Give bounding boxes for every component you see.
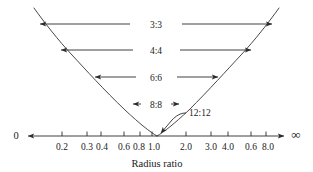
x-axis-title: Radius ratio bbox=[131, 158, 182, 169]
x-axis-tick-label: 8.0 bbox=[262, 142, 274, 152]
annotation-label-6-6: 6:6 bbox=[150, 73, 162, 83]
annotation-3-3: 3:3 bbox=[40, 20, 272, 30]
annotation-6-6: 6:6 bbox=[95, 73, 218, 83]
annotation-label-12-12: 12:12 bbox=[189, 108, 211, 118]
x-axis-tick-label: 0.6 bbox=[245, 142, 257, 152]
x-axis-tick-label: 4.0 bbox=[222, 142, 234, 152]
diagram-canvas: 3:3 4:4 6:6 8:8 12:12 bbox=[0, 0, 313, 172]
annotation-label-3-3: 3:3 bbox=[150, 20, 162, 30]
annotation-12-12: 12:12 bbox=[161, 108, 211, 133]
annotation-8-8: 8:8 bbox=[133, 100, 179, 110]
annotation-4-4: 4:4 bbox=[61, 46, 251, 56]
x-axis-tick-label: 2.0 bbox=[180, 142, 192, 152]
x-axis-tick-label: 0.3 bbox=[81, 142, 93, 152]
x-axis-tick-label: 0.8 bbox=[133, 142, 145, 152]
x-axis-zero-label: 0 bbox=[13, 130, 18, 141]
x-axis-tick-label: 0.2 bbox=[56, 142, 68, 152]
x-axis-tick-label: 1.0 bbox=[148, 142, 160, 152]
radius-ratio-diagram: 3:3 4:4 6:6 8:8 12:12 bbox=[0, 0, 313, 172]
annotation-label-4-4: 4:4 bbox=[150, 46, 162, 56]
x-axis: 0 ∞ 0.2 0.3 0.4 0.6 0.8 1.0 2.0 3.0 4.0 … bbox=[13, 127, 300, 169]
x-axis-infinity-label: ∞ bbox=[291, 127, 300, 142]
x-axis-tick-label: 0.4 bbox=[96, 142, 108, 152]
x-axis-tick-label: 3.0 bbox=[205, 142, 217, 152]
annotation-label-8-8: 8:8 bbox=[150, 100, 162, 110]
x-axis-tick-label: 0.6 bbox=[118, 142, 130, 152]
